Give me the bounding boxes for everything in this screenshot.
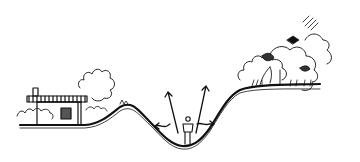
view-arrows xyxy=(155,86,214,133)
right-trees xyxy=(238,34,332,91)
person xyxy=(183,117,193,144)
left-shrubs xyxy=(17,108,53,119)
house xyxy=(27,88,87,125)
right-tree-hatching xyxy=(252,16,318,86)
valley-section-sketch xyxy=(0,0,360,162)
